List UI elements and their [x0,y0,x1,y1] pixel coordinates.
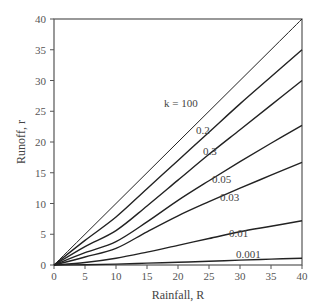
y-tick-label: 0 [41,259,47,271]
x-tick-label: 5 [82,270,88,282]
curve-label: 0.001 [236,248,261,260]
y-axis-ticks: 0510152025303540 [35,13,54,271]
x-tick-label: 25 [204,270,216,282]
y-tick-label: 40 [35,13,47,25]
curve-labels: k = 1000.20.30.050.030.010.001 [164,97,261,260]
x-axis-label: Rainfall, R [152,288,205,302]
x-tick-label: 35 [266,270,278,282]
curve-label: 0.3 [203,145,217,157]
x-tick-label: 40 [297,270,309,282]
x-tick-label: 15 [142,270,154,282]
y-tick-label: 10 [35,198,47,210]
curve-label: 0.05 [212,173,232,185]
x-tick-label: 30 [235,270,247,282]
y-tick-label: 5 [41,228,47,240]
y-axis-label: Runoff, r [14,120,28,164]
x-axis-ticks: 0510152025303540 [51,265,308,282]
y-tick-label: 35 [35,44,47,56]
curve-k100 [54,19,302,265]
curve-0-2 [54,50,302,265]
y-tick-label: 25 [35,105,47,117]
curve-label: 0.2 [196,124,210,136]
y-tick-label: 30 [35,75,47,87]
curve-label: k = 100 [164,97,198,109]
y-tick-label: 20 [35,136,47,148]
curve-label: 0.03 [220,191,240,203]
x-tick-label: 10 [111,270,123,282]
x-tick-label: 0 [51,270,57,282]
curve-label: 0.01 [229,227,248,239]
curve-0-03 [54,162,302,265]
x-tick-label: 20 [173,270,185,282]
curves [54,19,302,265]
runoff-chart: 0510152025303540 0510152025303540 k = 10… [0,0,324,305]
y-tick-label: 15 [35,167,47,179]
